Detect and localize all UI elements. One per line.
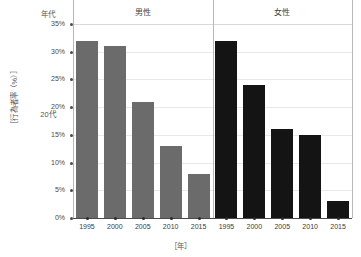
era-column-header: 年代 [26,8,70,19]
x-axis-title: ［年］ [0,240,361,251]
bar-female-2010 [299,135,321,218]
y-tick-label: 0% [25,214,65,221]
panel-separator-middle [213,0,214,218]
x-tick-mark [198,217,201,220]
bar-female-2015 [327,201,349,218]
y-tick-label: 30% [25,48,65,55]
y-tick-label: 10% [25,159,65,166]
plot-area [73,24,352,218]
x-tick-mark [170,217,173,220]
x-tick-mark [142,217,145,220]
panel-header-female: 女性 [212,6,352,17]
y-axis-title: ［行為者率（%）］ [8,53,19,143]
x-tick-mark [225,217,228,220]
x-tick-mark [253,217,256,220]
bar-male-2015 [188,174,210,218]
bar-male-1995 [76,41,98,218]
x-tick-label: 2015 [318,223,358,230]
y-tick-label: 35% [25,20,65,27]
bar-male-2005 [132,102,154,218]
y-tick-label: 25% [25,75,65,82]
x-tick-mark [114,217,117,220]
panel-header-male: 男性 [73,6,213,17]
bar-male-2010 [160,146,182,218]
bar-female-1995 [215,41,237,218]
y-tick-label: 20% [25,103,65,110]
panel-edge-line [73,0,74,218]
x-tick-mark [337,217,340,220]
chart-figure: 年代 20代 ［行為者率（%）］ 0%5%10%15%20%25%30%35% … [0,0,361,257]
bar-female-2005 [271,129,293,218]
panel-edge-line [352,0,353,218]
x-tick-mark [86,217,89,220]
bar-female-2000 [243,85,265,218]
x-tick-mark [309,217,312,220]
bar-male-2000 [104,46,126,218]
x-tick-mark [281,217,284,220]
y-tick-label: 15% [25,131,65,138]
y-tick-label: 5% [25,186,65,193]
